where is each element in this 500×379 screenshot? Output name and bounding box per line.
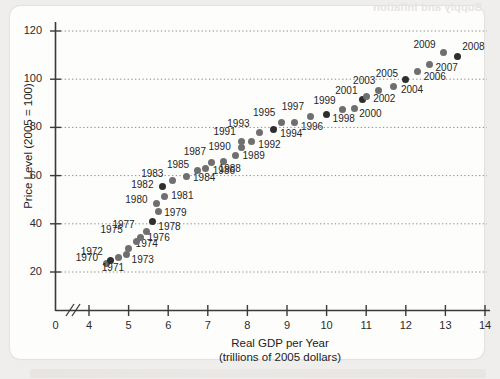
x-axis-title-line2: (trillions of 2005 dollars) — [120, 350, 440, 364]
data-point-1980 — [153, 200, 160, 207]
data-point-2002 — [363, 93, 370, 100]
x-tick-label-10: 10 — [313, 319, 341, 331]
x-tick-label-8: 8 — [233, 319, 261, 331]
x-tick-label-9: 9 — [273, 319, 301, 331]
point-label-1985: 1985 — [167, 159, 189, 170]
data-point-1994 — [270, 126, 277, 133]
y-axis-title: Price Level (2005 = 100) — [22, 66, 34, 226]
point-label-1972: 1972 — [81, 246, 103, 257]
point-label-2000: 2000 — [359, 108, 381, 119]
point-label-1994: 1994 — [280, 128, 302, 139]
point-label-2001: 2001 — [335, 85, 357, 96]
point-label-1980: 1980 — [125, 194, 147, 205]
data-point-1989 — [232, 152, 239, 159]
x-tick-label-14: 14 — [471, 319, 499, 331]
y-tick-label-120: 120 — [8, 24, 42, 36]
point-label-2004: 2004 — [401, 84, 423, 95]
x-axis-title-line1: Real GDP per Year — [120, 336, 440, 350]
data-point-1977 — [143, 228, 150, 235]
data-point-1993 — [256, 129, 263, 136]
data-point-1979 — [155, 208, 162, 215]
point-label-2002: 2002 — [373, 93, 395, 104]
x-tick-label-12: 12 — [392, 319, 420, 331]
point-label-1995: 1995 — [253, 107, 275, 118]
x-tick-label-5: 5 — [115, 319, 143, 331]
y-tick-label-20: 20 — [8, 265, 42, 277]
data-point-1973 — [123, 251, 130, 258]
point-label-1989: 1989 — [243, 150, 265, 161]
x-tick-label-11: 11 — [352, 319, 380, 331]
x-tick-label-0: 0 — [42, 319, 70, 331]
data-point-1981 — [161, 193, 168, 200]
point-label-2007: 2007 — [436, 62, 458, 73]
point-label-2009: 2009 — [413, 39, 435, 50]
point-label-1987: 1987 — [184, 146, 206, 157]
point-label-1978: 1978 — [158, 221, 180, 232]
point-label-1979: 1979 — [164, 207, 186, 218]
data-point-1995 — [278, 119, 285, 126]
data-point-2008 — [454, 53, 461, 60]
x-axis-title: Real GDP per Year (trillions of 2005 dol… — [120, 336, 440, 364]
data-point-1984 — [183, 173, 190, 180]
point-label-1988: 1988 — [219, 163, 241, 174]
point-label-1992: 1992 — [258, 139, 280, 150]
data-point-2005 — [402, 76, 409, 83]
point-label-1976: 1976 — [147, 232, 169, 243]
data-point-1991 — [238, 138, 245, 145]
data-point-2003 — [375, 87, 382, 94]
point-label-1999: 1999 — [313, 95, 335, 106]
point-label-2003: 2003 — [353, 75, 375, 86]
point-label-2005: 2005 — [376, 68, 398, 79]
point-label-1998: 1998 — [333, 113, 355, 124]
data-point-1998 — [323, 111, 330, 118]
x-tick-label-4: 4 — [75, 319, 103, 331]
point-label-1990: 1990 — [208, 141, 230, 152]
x-tick-label-7: 7 — [194, 319, 222, 331]
scatter-plot: 20406080100120 04567891011121314 1970197… — [0, 0, 500, 379]
x-tick-label-13: 13 — [431, 319, 459, 331]
data-point-1983 — [169, 177, 176, 184]
point-label-1997: 1997 — [282, 101, 304, 112]
point-label-2008: 2008 — [462, 41, 484, 52]
point-label-1983: 1983 — [141, 168, 163, 179]
point-label-1996: 1996 — [301, 121, 323, 132]
data-point-1976 — [137, 234, 144, 241]
point-label-1973: 1973 — [132, 254, 154, 265]
data-point-1974 — [125, 245, 132, 252]
data-point-1999 — [339, 106, 346, 113]
x-tick-label-6: 6 — [154, 319, 182, 331]
point-label-1993: 1993 — [227, 118, 249, 129]
data-point-2000 — [351, 105, 358, 112]
point-label-1971: 1971 — [102, 262, 124, 273]
point-label-1977: 1977 — [112, 219, 134, 230]
point-label-1982: 1982 — [131, 179, 153, 190]
figure-page: Supply and Inflation 20406080100120 0456… — [0, 0, 500, 379]
point-label-1981: 1981 — [171, 190, 193, 201]
